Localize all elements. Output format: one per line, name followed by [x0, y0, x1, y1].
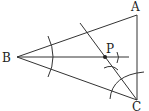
- label-p: P: [106, 42, 114, 56]
- arc-p-2: [104, 66, 118, 70]
- label-a: A: [130, 0, 140, 14]
- arc-c: [110, 72, 144, 99]
- geometry-diagram: A B C P: [0, 0, 149, 111]
- bisector-c: [80, 23, 137, 100]
- label-c: C: [132, 100, 141, 111]
- segment-bc: [17, 57, 137, 100]
- label-b: B: [2, 51, 11, 65]
- diagram-svg: A B C P: [0, 0, 149, 111]
- segment-ab: [17, 15, 137, 57]
